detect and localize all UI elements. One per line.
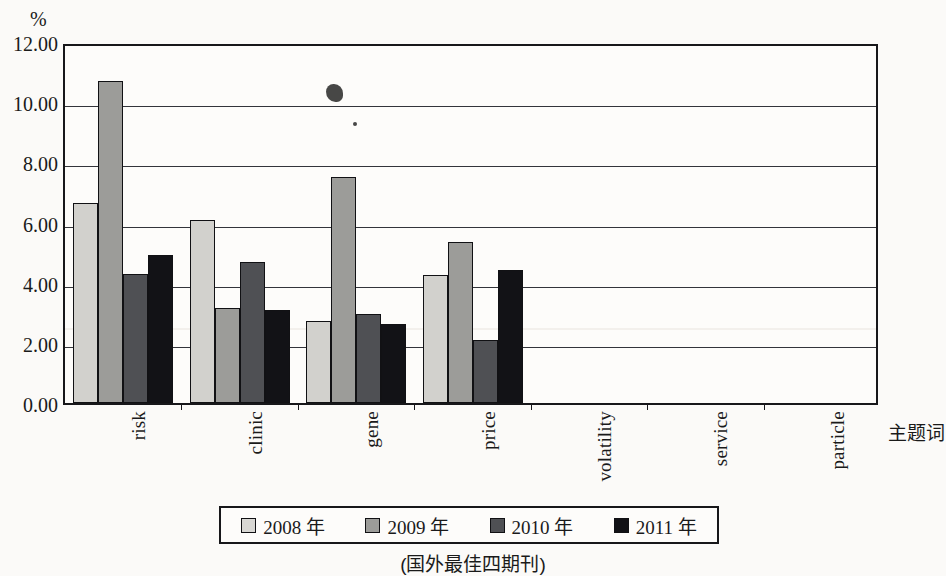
chart-legend: 2008 年2009 年2010 年2011 年 bbox=[219, 506, 719, 544]
y-axis-tick-labels: 12.0010.008.006.004.002.000.00 bbox=[0, 0, 58, 576]
scan-artifact-dot bbox=[353, 122, 357, 126]
y-axis-tick-label: 12.00 bbox=[0, 34, 58, 54]
y-axis-tick-label: 4.00 bbox=[0, 275, 58, 295]
bar-group bbox=[655, 46, 755, 403]
x-axis-tick-label: risk bbox=[128, 411, 150, 440]
bar bbox=[73, 203, 98, 403]
bar bbox=[498, 270, 523, 403]
bar-group bbox=[539, 46, 639, 403]
bar bbox=[265, 310, 290, 403]
figure-caption: (国外最佳四期刊) bbox=[0, 549, 946, 576]
bar-group bbox=[772, 46, 872, 403]
y-axis-tick-label: 8.00 bbox=[0, 154, 58, 174]
bar-groups bbox=[65, 46, 876, 403]
legend-item: 2010 年 bbox=[490, 512, 574, 539]
x-axis-tick-label: clinic bbox=[245, 411, 267, 454]
bar bbox=[240, 262, 265, 403]
legend-item: 2009 年 bbox=[365, 512, 449, 539]
bar bbox=[190, 220, 215, 404]
legend-label: 2011 年 bbox=[636, 512, 697, 539]
legend-swatch bbox=[241, 518, 256, 533]
x-axis-title: 主题词 bbox=[888, 418, 945, 445]
bar bbox=[473, 340, 498, 403]
bar-group bbox=[423, 46, 523, 403]
legend-label: 2010 年 bbox=[512, 512, 574, 539]
bar-group bbox=[73, 46, 173, 403]
x-axis-tick-label: gene bbox=[361, 411, 383, 448]
bar bbox=[448, 242, 473, 403]
bar-group bbox=[306, 46, 406, 403]
bar bbox=[356, 314, 381, 403]
scan-artifact-smudge bbox=[326, 84, 343, 102]
legend-label: 2008 年 bbox=[263, 512, 325, 539]
legend-label: 2009 年 bbox=[387, 512, 449, 539]
x-axis-tick-label: volatility bbox=[594, 411, 616, 482]
bar-chart-figure: % 12.0010.008.006.004.002.000.00 riskcli… bbox=[0, 0, 946, 576]
plot-area bbox=[63, 44, 878, 405]
legend-swatch bbox=[365, 518, 380, 533]
bar bbox=[423, 275, 448, 403]
x-axis-tick-label: price bbox=[478, 411, 500, 450]
bar bbox=[98, 81, 123, 403]
bar bbox=[148, 255, 173, 403]
legend-item: 2008 年 bbox=[241, 512, 325, 539]
y-axis-tick-label: 0.00 bbox=[0, 395, 58, 415]
bar bbox=[123, 274, 148, 403]
legend-swatch bbox=[614, 518, 629, 533]
x-axis-tick-labels: riskclinicgenepricevolatilityservicepart… bbox=[63, 409, 878, 499]
x-axis-tick-label: service bbox=[710, 411, 732, 466]
y-axis-tick-label: 6.00 bbox=[0, 215, 58, 235]
bar bbox=[381, 324, 406, 403]
bar bbox=[331, 177, 356, 403]
legend-item: 2011 年 bbox=[614, 512, 697, 539]
bar bbox=[306, 321, 331, 403]
y-axis-tick-label: 10.00 bbox=[0, 94, 58, 114]
bar-group bbox=[190, 46, 290, 403]
x-axis-tick-label: particle bbox=[827, 411, 849, 470]
legend-swatch bbox=[490, 518, 505, 533]
y-axis-tick-label: 2.00 bbox=[0, 335, 58, 355]
bar bbox=[215, 308, 240, 403]
